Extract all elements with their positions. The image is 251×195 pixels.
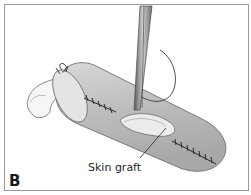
panel-label: B	[9, 174, 20, 189]
skin-graft-label: Skin graft	[88, 162, 141, 173]
